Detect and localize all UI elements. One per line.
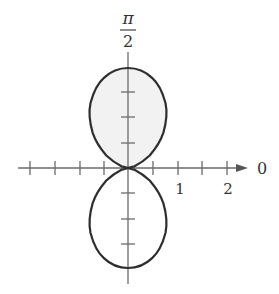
label-pi: π <box>121 8 134 28</box>
polar-graph-figure: π 2 0 1 2 <box>0 0 279 294</box>
label-tick-1: 1 <box>175 180 185 198</box>
label-two-denominator: 2 <box>123 32 133 51</box>
polar-graph-svg: π 2 0 1 2 <box>0 0 279 294</box>
label-zero-angle: 0 <box>257 159 267 178</box>
axis-arrow-icon <box>236 164 248 172</box>
label-tick-2: 2 <box>223 180 233 198</box>
